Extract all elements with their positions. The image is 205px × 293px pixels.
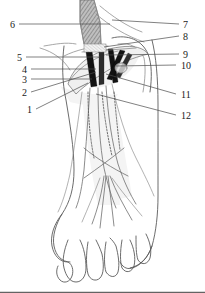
- label-5: 5: [17, 52, 22, 63]
- label-11: 11: [181, 89, 191, 100]
- retinaculum-window: [115, 63, 127, 73]
- label-12: 12: [181, 110, 191, 121]
- label-2: 2: [22, 87, 27, 98]
- label-9: 9: [183, 49, 188, 60]
- label-group-right: 7 8 9 10 11 12: [181, 19, 191, 121]
- label-group-left: 6 5 4 3 2 1: [10, 19, 32, 115]
- label-10: 10: [181, 60, 191, 71]
- label-1: 1: [27, 104, 32, 115]
- label-7: 7: [183, 19, 188, 30]
- foot-outline: [51, 214, 152, 282]
- tendon-sheath-texture: [84, 44, 106, 52]
- leader-11: [106, 74, 176, 94]
- label-6: 6: [10, 19, 15, 30]
- label-3: 3: [22, 74, 27, 85]
- label-8: 8: [183, 31, 188, 42]
- anatomy-figure: 6 5 4 3 2 1 7 8 9 10 11 12: [0, 0, 205, 293]
- anatomy-illustration: 6 5 4 3 2 1 7 8 9 10 11 12: [0, 0, 205, 293]
